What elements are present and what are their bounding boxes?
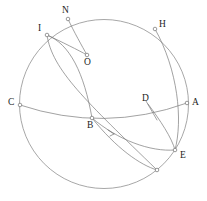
point-marker-e xyxy=(173,148,177,152)
geometry-figure: N I H O C D A B E xyxy=(0,0,207,201)
label-b: B xyxy=(87,121,93,131)
arc-i-through-o-to-b xyxy=(47,35,92,118)
point-marker-n xyxy=(66,17,70,21)
label-d: D xyxy=(142,94,149,104)
arc-b-to-e xyxy=(92,118,175,150)
point-marker-a xyxy=(185,101,189,105)
label-i: I xyxy=(38,24,41,34)
sphere-diagram-canvas xyxy=(0,0,207,201)
label-o: O xyxy=(84,58,91,68)
point-marker-i xyxy=(45,33,49,37)
point-marker-unlabeled-bottom xyxy=(155,168,159,172)
label-n: N xyxy=(62,6,69,16)
label-e: E xyxy=(180,151,186,161)
direction-arrow-icon xyxy=(108,130,114,136)
point-marker-h xyxy=(153,27,157,31)
arc-i-to-bottom-point xyxy=(47,35,157,170)
equator-front-arc xyxy=(20,103,187,119)
label-h: H xyxy=(159,20,166,30)
segment-i-to-o xyxy=(47,35,87,55)
leader-line-d xyxy=(146,101,157,120)
point-marker-c xyxy=(18,103,22,107)
label-c: C xyxy=(8,98,14,108)
label-a: A xyxy=(192,98,199,108)
